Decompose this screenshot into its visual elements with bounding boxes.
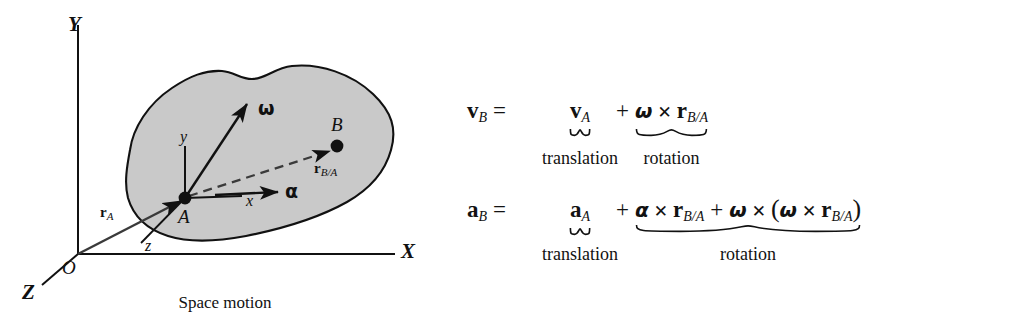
velocity-equals: = — [487, 98, 512, 124]
rigid-body-shape — [126, 66, 393, 241]
axis-label-Z: Z — [22, 282, 35, 303]
origin-label: O — [62, 258, 76, 277]
acceleration-lhs: aB — [467, 197, 487, 225]
figure-caption: Space motion — [110, 293, 340, 313]
vector-label-rBA-sub: B/A — [321, 166, 338, 178]
velocity-equation-line: vB = vA + ω✕rB/A — [467, 98, 708, 126]
acceleration-rotation-label: rotation — [683, 244, 813, 265]
equations-block: vB = vA + ω✕rB/A translation — [455, 96, 1030, 286]
local-axis-label-y: y — [180, 129, 187, 145]
equation-velocity: vB = vA + ω✕rB/A translation — [455, 96, 1030, 186]
point-B-dot — [331, 140, 344, 153]
velocity-translation-brace — [570, 128, 590, 139]
velocity-rotation-term: ω✕rB/A — [635, 98, 708, 126]
acceleration-rotation-brace — [635, 224, 861, 235]
velocity-rotation-label: rotation — [607, 148, 737, 169]
space-motion-diagram — [0, 0, 450, 331]
vector-label-rA: rA — [100, 205, 113, 222]
velocity-plus: + — [590, 98, 635, 124]
acceleration-translation-term: aA — [570, 197, 590, 225]
acceleration-plus: + — [590, 197, 635, 223]
omega-label: ω — [258, 99, 275, 118]
axis-label-X: X — [401, 241, 415, 262]
acceleration-rotation-term: α✕rB/A+ω✕(ω✕rB/A) — [635, 194, 861, 225]
acceleration-equals: = — [487, 197, 512, 223]
local-axis-label-x: x — [246, 193, 253, 209]
acceleration-translation-brace — [570, 227, 590, 238]
point-label-B: B — [331, 115, 343, 134]
local-axis-label-z: z — [145, 238, 151, 254]
point-A-dot — [179, 192, 192, 205]
acceleration-equation-line: aB = aA + α✕rB/A+ω✕(ω✕rB/A) — [467, 194, 861, 225]
vector-label-rBA-base: r — [314, 160, 321, 176]
vector-label-rA-sub: A — [107, 210, 114, 222]
vector-label-rBA: rB/A — [314, 161, 337, 178]
acceleration-translation-label: translation — [515, 244, 645, 265]
velocity-lhs: vB — [467, 98, 487, 126]
vector-label-rA-base: r — [100, 204, 107, 220]
figure-container: Y X Z O y x z A B ω α rA rB/A Space moti… — [0, 0, 1030, 331]
equation-acceleration: aB = aA + α✕rB/A+ω✕(ω✕rB/A) tra — [455, 192, 1030, 282]
velocity-rotation-brace — [635, 128, 708, 139]
point-label-A: A — [178, 207, 190, 226]
velocity-translation-term: vA — [570, 98, 590, 126]
alpha-label: α — [285, 182, 298, 201]
axis-label-Y: Y — [68, 14, 81, 35]
